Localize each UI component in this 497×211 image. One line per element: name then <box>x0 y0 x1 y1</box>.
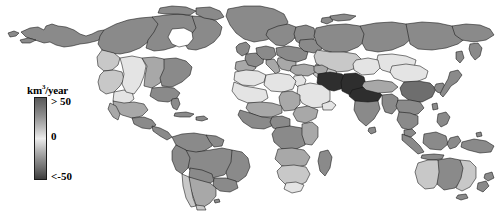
colorbar-tick-lower: <-50 <box>51 170 72 182</box>
region-falklands <box>214 199 220 203</box>
region-libya-egypt <box>264 73 296 92</box>
figure-container: km3/year > 50 0 <-50 <box>0 0 497 211</box>
colorbar-tick-middle: 0 <box>51 130 57 142</box>
colorbar-tick-upper: > 50 <box>51 95 71 107</box>
colorbar-gradient <box>34 97 47 180</box>
colorbar-legend: km3/year > 50 0 <-50 <box>24 84 96 188</box>
legend-title-main: km <box>27 84 42 96</box>
region-taiwan <box>432 103 438 110</box>
region-pacific-islands <box>476 132 482 137</box>
